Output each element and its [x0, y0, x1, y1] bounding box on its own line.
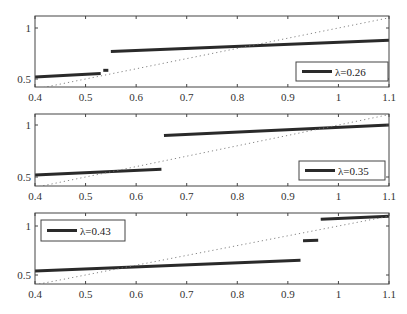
x-tick-label: 0.8	[230, 91, 244, 103]
x-tick-label: 0.7	[180, 190, 194, 202]
x-tick-label: 0.4	[28, 190, 42, 202]
legend-label: λ=0.26	[335, 66, 366, 78]
figure: 0.40.50.60.70.80.911.10.51λ=0.260.40.50.…	[0, 0, 407, 314]
legend: λ=0.26	[296, 62, 388, 81]
series-segment	[164, 125, 389, 135]
x-tick-label: 0.9	[281, 288, 295, 300]
series-segment	[35, 169, 161, 175]
x-tick-label: 0.7	[180, 91, 194, 103]
y-tick-label: 0.5	[17, 269, 31, 281]
x-tick-label: 0.4	[28, 288, 42, 300]
x-tick-label: 1.1	[382, 288, 396, 300]
x-tick-label: 1.1	[382, 91, 396, 103]
y-tick-label: 1	[26, 220, 32, 232]
x-tick-label: 1	[336, 190, 342, 202]
y-tick-label: 0.5	[17, 171, 31, 183]
x-tick-label: 0.5	[79, 91, 93, 103]
legend-label: λ=0.35	[338, 165, 369, 177]
legend: λ=0.43	[41, 220, 125, 241]
x-tick-label: 0.6	[129, 288, 143, 300]
x-tick-label: 0.9	[281, 190, 295, 202]
legend-label: λ=0.43	[80, 225, 111, 237]
x-tick-label: 0.8	[230, 288, 244, 300]
x-tick-label: 0.5	[79, 288, 93, 300]
y-tick-label: 0.5	[17, 73, 31, 85]
x-tick-label: 0.4	[28, 91, 42, 103]
x-tick-label: 0.7	[180, 288, 194, 300]
y-tick-label: 1	[26, 119, 32, 131]
legend: λ=0.35	[299, 161, 385, 180]
x-tick-label: 0.5	[79, 190, 93, 202]
x-tick-label: 0.6	[129, 190, 143, 202]
x-tick-label: 0.9	[281, 91, 295, 103]
x-tick-label: 1.1	[382, 190, 396, 202]
y-tick-label: 1	[26, 22, 32, 34]
x-tick-label: 1	[336, 91, 342, 103]
panel-3: 0.40.50.60.70.80.911.10.51λ=0.43	[17, 213, 396, 300]
x-tick-label: 0.6	[129, 91, 143, 103]
x-tick-label: 1	[336, 288, 342, 300]
series-segment	[35, 260, 301, 271]
series-segment	[321, 216, 389, 219]
panel-2: 0.40.50.60.70.80.911.10.51λ=0.35	[17, 114, 396, 202]
x-tick-label: 0.8	[230, 190, 244, 202]
panel-1: 0.40.50.60.70.80.911.10.51λ=0.26	[17, 16, 396, 103]
series-segment	[35, 73, 101, 77]
